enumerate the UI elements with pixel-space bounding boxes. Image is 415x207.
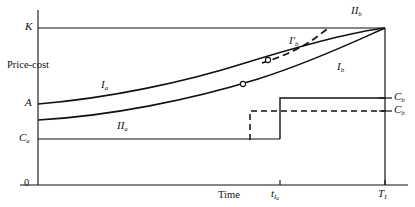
y-tick-Ca-sub: a [26,137,29,144]
y-tick-label-Ca: Ca [19,132,30,144]
curve-IIb-sub: b [358,10,361,17]
x-tick-tIa-sub: Ia [274,193,279,200]
figure-canvas: Price-cost Time 0 K A Ca tIa TI Cb Cb Ia… [0,0,415,207]
curve-label-Ib-prime: I′b [289,35,298,47]
curve-IIa [38,28,385,120]
curve-Ib-sub: b [341,66,344,73]
x-tick-label-TI: TI [378,188,386,200]
y-tick-label-A: A [25,97,32,108]
curve-label-Ib: Ib [337,61,344,73]
curve-label-Ia: Ia [101,79,108,91]
curve-Ibprime-sub: b [295,40,298,47]
x-tick-tIa-subsub: a [276,195,279,201]
x-tick-label-tIa: tIa [271,188,279,201]
marker-IIa-icon [240,81,245,86]
plot-svg [0,0,415,207]
curve-label-IIa: IIa [117,120,128,132]
origin-label: 0 [24,178,29,189]
x-tick-TI-sub: I [384,193,386,200]
curve-IIa-sub: a [124,125,127,132]
cost-step-solid [280,98,385,139]
marker-Ia-icon [265,57,270,62]
right-Cb-solid-sub: b [401,96,404,103]
y-axis-label: Price-cost [7,60,49,71]
right-label-Cb-solid: Cb [394,91,405,103]
right-label-Cb-dashed: Cb [394,104,405,116]
cost-step-dashed [250,111,385,140]
right-Cb-dashed-sub: b [401,109,404,116]
curve-Ia-sub: a [105,84,108,91]
y-tick-label-K: K [25,21,32,32]
curve-label-IIb: IIb [351,5,362,17]
x-axis-label: Time [218,190,240,201]
